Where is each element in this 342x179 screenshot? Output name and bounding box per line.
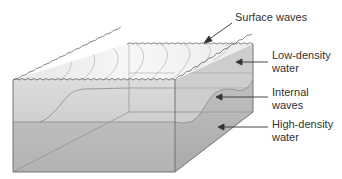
arrowhead-icon <box>204 36 212 43</box>
label-low-density-line2: water <box>272 62 331 75</box>
label-low-density-water: Low-density water <box>272 49 331 75</box>
surface-waves-leader <box>204 23 232 43</box>
label-surface-waves-text: Surface waves <box>235 11 307 24</box>
label-high-density-water: High-density water <box>272 118 333 144</box>
label-high-density-line2: water <box>272 131 333 144</box>
high-density-layer-front <box>13 122 175 172</box>
low-density-layer-front <box>13 80 175 122</box>
label-high-density-line1: High-density <box>272 118 333 131</box>
label-internal-waves-line2: waves <box>272 99 309 112</box>
label-internal-waves: Internal waves <box>272 86 309 112</box>
label-low-density-line1: Low-density <box>272 49 331 62</box>
front-face <box>13 80 175 172</box>
label-internal-waves-line1: Internal <box>272 86 309 99</box>
label-surface-waves: Surface waves <box>235 11 307 24</box>
